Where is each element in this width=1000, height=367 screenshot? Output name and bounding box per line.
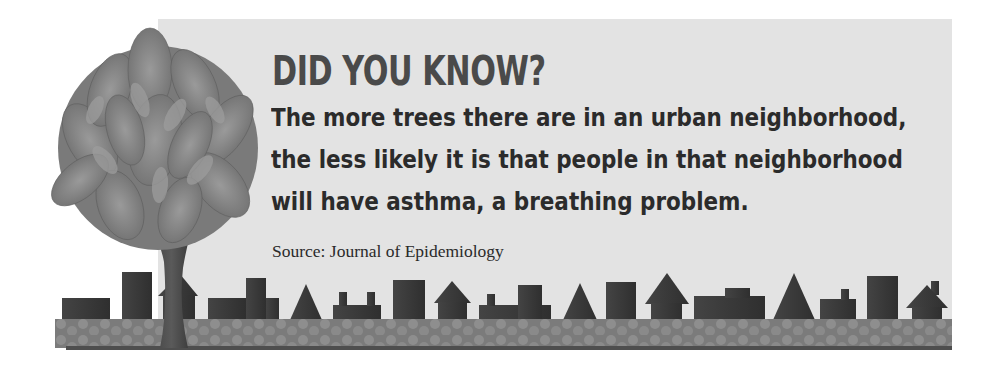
fact-line-2: the less likely it is that people in tha… (271, 139, 906, 181)
skyline (62, 272, 948, 320)
fact-line-3: will have asthma, a breathing problem. (271, 181, 906, 223)
ground-strip (55, 319, 952, 350)
headline: DID YOU KNOW? (272, 47, 546, 95)
source-citation: Source: Journal of Epidemiology (272, 241, 504, 262)
fact-text: The more trees there are in an urban nei… (271, 97, 906, 223)
fact-line-1: The more trees there are in an urban nei… (271, 97, 906, 139)
